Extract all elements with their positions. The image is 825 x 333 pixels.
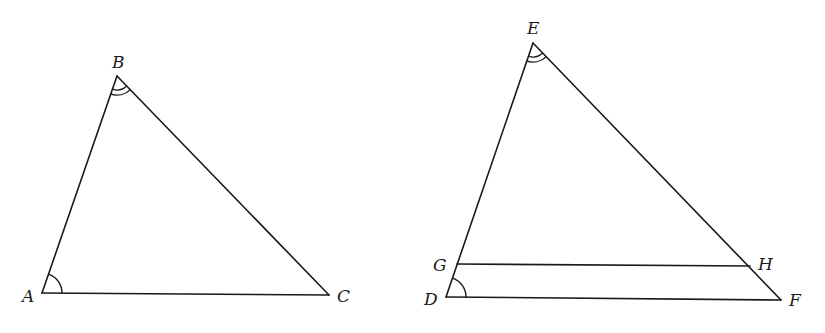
- side-bc: [117, 76, 329, 295]
- label-b: B: [111, 52, 125, 72]
- geometry-diagram: A B C E G H D F: [0, 0, 825, 333]
- triangle-abc: A B C: [20, 52, 350, 306]
- label-h: H: [757, 254, 774, 274]
- label-a: A: [20, 286, 34, 306]
- side-df: [446, 297, 781, 300]
- angle-b-mark-inner: [112, 86, 126, 90]
- angle-b-mark-outer: [111, 90, 130, 95]
- angle-a-mark: [49, 274, 63, 293]
- side-ac: [42, 293, 329, 295]
- angle-d-mark: [453, 278, 467, 297]
- label-c: C: [337, 286, 350, 306]
- label-g: G: [433, 255, 447, 275]
- label-e: E: [526, 18, 540, 38]
- side-ef: [533, 43, 781, 300]
- angle-e-mark-inner: [529, 53, 543, 57]
- side-ab: [42, 76, 117, 293]
- segment-gh: [457, 264, 750, 266]
- side-ed: [446, 43, 533, 297]
- triangle-edf: E G H D F: [423, 18, 802, 310]
- angle-e-mark-outer: [527, 57, 546, 62]
- label-f: F: [788, 290, 802, 310]
- label-d: D: [423, 289, 438, 309]
